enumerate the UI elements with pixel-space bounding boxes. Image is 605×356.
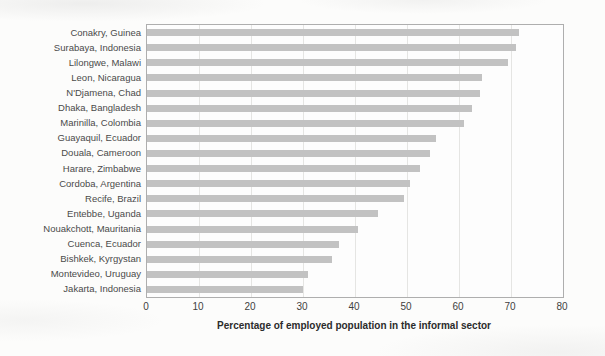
x-tick-label: 10 — [192, 301, 203, 312]
category-label: Jakarta, Indonesia — [63, 283, 141, 294]
bar — [147, 150, 430, 157]
category-label: Cuenca, Ecuador — [68, 238, 141, 249]
x-tick-label: 0 — [143, 301, 149, 312]
bar — [147, 90, 480, 97]
figure-background: Conakry, GuineaSurabaya, IndonesiaLilong… — [0, 0, 605, 356]
category-label: Recife, Brazil — [85, 192, 141, 203]
category-label: Lilongwe, Malawi — [69, 56, 141, 67]
x-axis-title: Percentage of employed population in the… — [217, 320, 491, 331]
bar — [147, 29, 519, 36]
category-label: Nouakchott, Mauritania — [43, 223, 141, 234]
x-tick-label: 80 — [556, 301, 567, 312]
bar — [147, 165, 420, 172]
bar — [147, 180, 410, 187]
category-label: Marinilla, Colombia — [60, 117, 141, 128]
x-tick-label: 50 — [400, 301, 411, 312]
bar — [147, 226, 358, 233]
category-label: Bishkek, Kyrgystan — [60, 253, 141, 264]
category-label: Entebbe, Uganda — [67, 207, 141, 218]
plot-area — [146, 24, 564, 298]
bar — [147, 59, 508, 66]
category-label: Dhaka, Bangladesh — [58, 102, 141, 113]
x-tick-label: 70 — [504, 301, 515, 312]
x-tick-label: 60 — [452, 301, 463, 312]
bar — [147, 286, 303, 293]
bar — [147, 74, 482, 81]
bar — [147, 44, 516, 51]
bar — [147, 195, 404, 202]
category-label: Cordoba, Argentina — [59, 177, 141, 188]
category-label: Surabaya, Indonesia — [54, 41, 141, 52]
category-label: Harare, Zimbabwe — [63, 162, 141, 173]
category-label: Conakry, Guinea — [70, 26, 141, 37]
category-label: N'Djamena, Chad — [66, 87, 141, 98]
bar — [147, 135, 436, 142]
gridline — [511, 25, 512, 297]
bar — [147, 120, 464, 127]
category-label: Montevideo, Uruguay — [51, 268, 141, 279]
x-tick-label: 20 — [244, 301, 255, 312]
x-tick-label: 40 — [348, 301, 359, 312]
bar — [147, 256, 332, 263]
bar — [147, 271, 308, 278]
bar — [147, 241, 339, 248]
bar — [147, 210, 378, 217]
category-label: Leon, Nicaragua — [71, 71, 141, 82]
category-label: Douala, Cameroon — [61, 147, 141, 158]
category-label: Guayaquil, Ecuador — [58, 132, 141, 143]
bar — [147, 105, 472, 112]
x-tick-label: 30 — [296, 301, 307, 312]
